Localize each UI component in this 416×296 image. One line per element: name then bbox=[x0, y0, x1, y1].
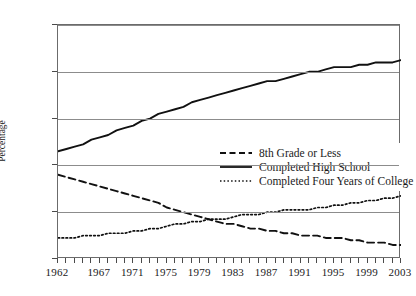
x-tick-mark bbox=[266, 258, 267, 263]
legend-label: Completed High School bbox=[259, 161, 370, 173]
x-tick-label: 2003 bbox=[389, 266, 412, 278]
x-tick-mark bbox=[141, 258, 142, 263]
x-tick-mark bbox=[149, 258, 150, 263]
x-tick-mark bbox=[300, 258, 301, 263]
plot-area: 8th Grade or Less Completed High School … bbox=[57, 24, 400, 258]
x-tick-mark bbox=[400, 258, 401, 263]
x-tick-mark bbox=[107, 258, 108, 263]
x-tick-mark bbox=[308, 258, 309, 263]
y-tick-mark bbox=[52, 71, 57, 72]
gridline-y bbox=[58, 212, 399, 213]
x-tick-mark bbox=[182, 258, 183, 263]
x-tick-label: 1995 bbox=[322, 266, 345, 278]
dotted-line-key bbox=[219, 175, 253, 187]
education-attainment-line-chart: Percentage 8th Grade or Less Completed H… bbox=[0, 0, 416, 296]
x-tick-mark bbox=[383, 258, 384, 263]
x-tick-mark bbox=[124, 258, 125, 263]
x-tick-mark bbox=[191, 258, 192, 263]
y-tick-mark bbox=[52, 24, 57, 25]
y-axis-title: Percentage bbox=[0, 81, 7, 201]
x-tick-mark bbox=[233, 258, 234, 263]
x-tick-mark bbox=[208, 258, 209, 263]
gridline-y bbox=[58, 165, 399, 166]
x-tick-mark bbox=[82, 258, 83, 263]
y-tick-mark bbox=[52, 164, 57, 165]
x-tick-mark bbox=[174, 258, 175, 263]
solid-line-key bbox=[219, 161, 253, 173]
x-tick-mark bbox=[65, 258, 66, 263]
x-tick-mark bbox=[275, 258, 276, 263]
x-tick-mark bbox=[291, 258, 292, 263]
x-tick-mark bbox=[283, 258, 284, 263]
x-tick-mark bbox=[166, 258, 167, 263]
x-tick-label: 1979 bbox=[188, 266, 211, 278]
x-tick-mark bbox=[99, 258, 100, 263]
x-tick-label: 1991 bbox=[288, 266, 311, 278]
x-tick-label: 1967 bbox=[87, 266, 110, 278]
dashed-line-key bbox=[219, 147, 253, 159]
y-tick-mark bbox=[52, 118, 57, 119]
x-tick-mark bbox=[258, 258, 259, 263]
x-tick-label: 1987 bbox=[255, 266, 278, 278]
legend-item-8th-grade-or-less: 8th Grade or Less bbox=[219, 146, 416, 160]
x-tick-mark bbox=[132, 258, 133, 263]
chart-legend: 8th Grade or Less Completed High School … bbox=[215, 143, 416, 191]
gridline-y bbox=[58, 72, 399, 73]
legend-item-completed-four-years-of-college: Completed Four Years of College bbox=[219, 174, 416, 188]
x-tick-mark bbox=[333, 258, 334, 263]
legend-label: 8th Grade or Less bbox=[259, 147, 341, 159]
x-tick-mark bbox=[216, 258, 217, 263]
x-tick-mark bbox=[249, 258, 250, 263]
series-line bbox=[58, 196, 401, 238]
gridline-y bbox=[58, 25, 399, 26]
series-line bbox=[58, 60, 401, 151]
series-layer bbox=[58, 25, 401, 259]
x-tick-mark bbox=[199, 258, 200, 263]
x-tick-mark bbox=[375, 258, 376, 263]
x-tick-mark bbox=[392, 258, 393, 263]
x-tick-mark bbox=[341, 258, 342, 263]
gridline-y bbox=[58, 119, 399, 120]
x-tick-label: 1999 bbox=[355, 266, 378, 278]
x-tick-mark bbox=[90, 258, 91, 263]
x-tick-label: 1983 bbox=[221, 266, 244, 278]
x-tick-mark bbox=[224, 258, 225, 263]
x-tick-mark bbox=[325, 258, 326, 263]
x-tick-mark bbox=[350, 258, 351, 263]
x-tick-label: 1975 bbox=[154, 266, 177, 278]
x-tick-mark bbox=[74, 258, 75, 263]
legend-item-completed-high-school: Completed High School bbox=[219, 160, 416, 174]
x-tick-mark bbox=[157, 258, 158, 263]
x-tick-label: 1971 bbox=[121, 266, 144, 278]
legend-label: Completed Four Years of College bbox=[259, 175, 413, 187]
x-tick-mark bbox=[367, 258, 368, 263]
x-tick-mark bbox=[358, 258, 359, 263]
x-tick-mark bbox=[316, 258, 317, 263]
y-tick-mark bbox=[52, 211, 57, 212]
x-tick-mark bbox=[241, 258, 242, 263]
x-tick-label: 1962 bbox=[46, 266, 69, 278]
x-tick-mark bbox=[116, 258, 117, 263]
x-tick-mark bbox=[57, 258, 58, 263]
